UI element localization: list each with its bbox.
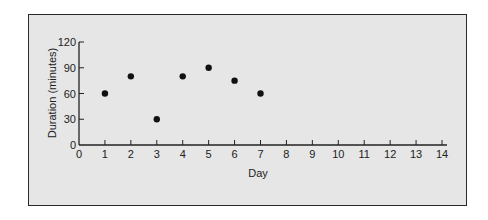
x-tick-label: 14 xyxy=(436,148,448,160)
data-points xyxy=(102,65,264,123)
x-tick-label: 10 xyxy=(332,148,344,160)
x-tick-label: 8 xyxy=(283,148,289,160)
x-tick-label: 0 xyxy=(76,148,82,160)
x-tick-label: 12 xyxy=(384,148,396,160)
y-axis-title: Duration (minutes) xyxy=(46,48,58,138)
data-point xyxy=(154,116,160,122)
x-tick-label: 2 xyxy=(128,148,134,160)
y-tick-label: 30 xyxy=(64,113,76,125)
x-tick-label: 9 xyxy=(309,148,315,160)
x-tick-label: 7 xyxy=(257,148,263,160)
data-point xyxy=(102,90,108,96)
y-tick-label: 60 xyxy=(64,88,76,100)
data-point xyxy=(231,77,237,83)
x-tick-label: 4 xyxy=(180,148,186,160)
scatter-chart: 030609012001234567891011121314 Day Durat… xyxy=(0,0,488,220)
x-axis-title: Day xyxy=(248,167,268,179)
y-tick-label: 120 xyxy=(58,36,76,48)
axes: 030609012001234567891011121314 xyxy=(58,36,448,160)
data-point xyxy=(205,65,211,71)
x-tick-label: 13 xyxy=(410,148,422,160)
x-tick-label: 11 xyxy=(359,148,370,160)
x-tick-label: 3 xyxy=(154,148,160,160)
x-tick-label: 6 xyxy=(232,148,238,160)
data-point xyxy=(180,73,186,79)
data-point xyxy=(128,73,134,79)
data-point xyxy=(257,90,263,96)
y-tick-label: 90 xyxy=(64,62,76,74)
x-tick-label: 5 xyxy=(206,148,212,160)
x-tick-label: 1 xyxy=(102,148,108,160)
